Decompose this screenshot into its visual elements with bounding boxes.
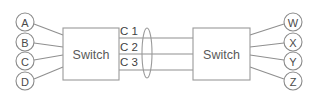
link-right-switch-to-z — [250, 67, 284, 79]
link-right-switch-to-y — [250, 55, 284, 60]
right-node-group: W X Y Z — [284, 13, 302, 90]
cable-label-group: C 1 C 2 C 3 — [120, 25, 138, 68]
node-y[interactable]: Y — [284, 52, 302, 70]
link-c-to-left-switch — [34, 55, 63, 60]
cable-label-c3: C 3 — [120, 56, 138, 68]
node-w[interactable]: W — [284, 13, 302, 31]
node-x-label: X — [289, 37, 297, 49]
node-d[interactable]: D — [16, 72, 34, 90]
node-y-label: Y — [289, 56, 297, 68]
node-d-label: D — [21, 76, 29, 88]
cable-label-c1: C 1 — [120, 25, 138, 37]
left-switch-label: Switch — [73, 48, 110, 62]
network-diagram: Switch Switch C 1 C 2 C 3 A B C — [0, 0, 313, 106]
node-c-label: C — [21, 56, 29, 68]
node-b[interactable]: B — [16, 33, 34, 51]
node-z-label: Z — [290, 76, 297, 88]
node-a[interactable]: A — [16, 13, 34, 31]
link-a-to-left-switch — [34, 24, 63, 35]
left-link-group — [34, 24, 63, 79]
diagram-canvas: Switch Switch C 1 C 2 C 3 A B C — [0, 0, 313, 106]
cable-label-c2: C 2 — [120, 41, 138, 53]
node-c[interactable]: C — [16, 52, 34, 70]
node-z[interactable]: Z — [284, 72, 302, 90]
right-switch-label: Switch — [203, 48, 240, 62]
node-a-label: A — [21, 17, 29, 29]
node-w-label: W — [288, 17, 299, 29]
node-x[interactable]: X — [284, 33, 302, 51]
link-right-switch-to-w — [250, 24, 284, 35]
link-right-switch-to-x — [250, 43, 284, 47]
right-switch[interactable]: Switch — [193, 28, 250, 80]
left-node-group: A B C D — [16, 13, 34, 90]
link-d-to-left-switch — [34, 67, 63, 79]
left-switch[interactable]: Switch — [63, 28, 119, 80]
node-b-label: B — [21, 37, 28, 49]
link-b-to-left-switch — [34, 43, 63, 47]
right-link-group — [250, 24, 284, 79]
